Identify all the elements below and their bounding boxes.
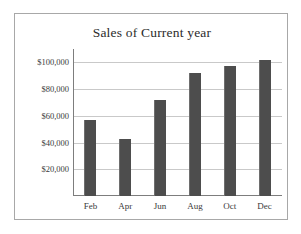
bar-feb[interactable] <box>84 120 96 196</box>
x-axis-tick-label-apr: Apr <box>118 201 132 211</box>
y-axis-tick-label: $40,000 <box>41 138 69 148</box>
x-axis-tick-label-aug: Aug <box>187 201 203 211</box>
y-axis-tick-label: $60,000 <box>41 111 69 121</box>
x-axis-tick-label-feb: Feb <box>84 201 98 211</box>
chart-title: Sales of Current year <box>15 25 289 41</box>
plot-area: $20,000$40,000$60,000$80,000$100,000 Feb… <box>73 49 282 196</box>
x-axis-tick-label-jun: Jun <box>154 201 167 211</box>
y-axis-tick-label: $80,000 <box>41 84 69 94</box>
bar-oct[interactable] <box>224 66 236 196</box>
bar-aug[interactable] <box>189 73 201 196</box>
gridline <box>73 169 282 170</box>
gridline <box>73 116 282 117</box>
bar-apr[interactable] <box>119 139 131 196</box>
bar-jun[interactable] <box>154 100 166 196</box>
y-axis-tick-label: $20,000 <box>41 164 69 174</box>
x-axis-tick-label-dec: Dec <box>257 201 272 211</box>
y-axis-line <box>73 49 74 196</box>
x-axis-tick-label-oct: Oct <box>223 201 236 211</box>
gridline <box>73 89 282 90</box>
bar-dec[interactable] <box>259 60 271 196</box>
x-axis-line <box>73 195 282 196</box>
y-axis-tick-label: $100,000 <box>37 57 69 67</box>
gridline <box>73 62 282 63</box>
gridline <box>73 143 282 144</box>
chart-frame: Sales of Current year $20,000$40,000$60,… <box>14 13 288 220</box>
